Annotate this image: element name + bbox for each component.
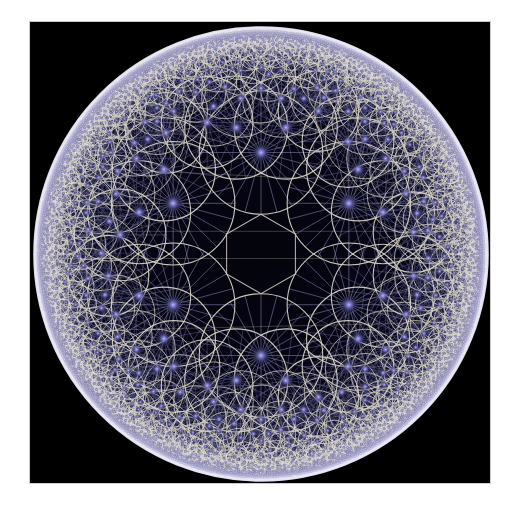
- hyperbolic-tiling-figure: [30, 22, 490, 483]
- disk-rim-glow: [34, 27, 488, 481]
- hyperbolic-tiling-panel: [30, 22, 490, 483]
- figure-stage: [0, 0, 516, 521]
